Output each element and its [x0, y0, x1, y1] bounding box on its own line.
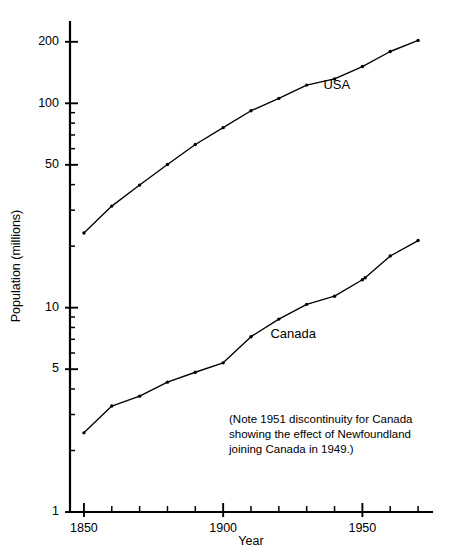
data-point-marker — [277, 97, 280, 100]
y-axis-title: Population (millions) — [9, 210, 23, 323]
data-point-marker — [361, 65, 364, 68]
data-point-marker — [277, 317, 280, 320]
note-line-3: joining Canada in 1949.) — [228, 443, 354, 455]
data-point-marker — [194, 143, 197, 146]
y-tick-label: 200 — [38, 34, 59, 48]
x-tick-label: 1900 — [209, 521, 237, 535]
data-point-marker — [389, 50, 392, 53]
data-point-marker — [416, 239, 419, 242]
data-point-marker — [221, 126, 224, 129]
y-tick-label: 1 — [52, 504, 59, 518]
data-point-marker — [194, 371, 197, 374]
x-tick-label: 1850 — [70, 521, 98, 535]
chart-svg: 151050100200 185019001950 USACanada Year… — [0, 0, 450, 554]
note-line-2: showing the effect of Newfoundland — [229, 428, 411, 440]
data-series-group — [84, 40, 418, 432]
data-point-marker — [305, 83, 308, 86]
data-point-marker — [416, 39, 419, 42]
data-point-marker — [221, 361, 224, 364]
data-point-marker — [110, 404, 113, 407]
data-point-marker — [249, 335, 252, 338]
y-axis-tick-labels: 151050100200 — [38, 34, 59, 518]
data-point-marker — [249, 109, 252, 112]
y-tick-label: 5 — [52, 361, 59, 375]
data-point-marker — [333, 294, 336, 297]
y-tick-label: 100 — [38, 96, 59, 110]
data-point-markers — [82, 39, 420, 435]
series-line-usa — [84, 40, 418, 233]
data-point-marker — [82, 231, 85, 234]
x-axis-tick-labels: 185019001950 — [70, 521, 376, 535]
data-point-marker — [166, 380, 169, 383]
data-point-marker — [361, 278, 364, 281]
x-axis-title: Year — [238, 534, 263, 548]
data-point-marker — [363, 276, 366, 279]
series-label-canada: Canada — [270, 326, 316, 341]
data-point-marker — [166, 163, 169, 166]
data-point-marker — [138, 183, 141, 186]
series-inline-labels: USACanada — [270, 77, 350, 341]
data-point-marker — [110, 204, 113, 207]
data-point-marker — [389, 254, 392, 257]
y-tick-label: 50 — [45, 157, 59, 171]
x-tick-label: 1950 — [348, 521, 376, 535]
newfoundland-note: (Note 1951 discontinuity for Canada show… — [228, 413, 413, 455]
series-label-usa: USA — [323, 77, 350, 92]
population-line-chart: 151050100200 185019001950 USACanada Year… — [0, 0, 450, 554]
data-point-marker — [82, 431, 85, 434]
x-axis-major-ticks — [84, 503, 362, 517]
data-point-marker — [305, 303, 308, 306]
data-point-marker — [138, 394, 141, 397]
note-line-1: (Note 1951 discontinuity for Canada — [229, 413, 413, 425]
y-tick-label: 10 — [45, 300, 59, 314]
